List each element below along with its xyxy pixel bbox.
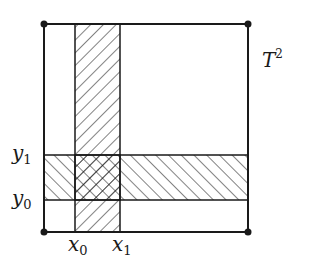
corner-dot-top-right <box>245 21 252 28</box>
y0-label: y0 <box>11 186 32 212</box>
corner-dot-bottom-right <box>245 229 252 236</box>
intersection-cell <box>75 155 120 200</box>
x1-label: x1 <box>112 232 132 258</box>
corner-dot-bottom-left <box>41 229 48 236</box>
y1-label: y1 <box>11 141 32 167</box>
corner-dot-top-left <box>41 21 48 28</box>
torus-diagram: T2 y1 y0 x0 x1 <box>0 0 312 276</box>
x0-label: x0 <box>68 232 88 258</box>
torus-label: T2 <box>262 47 283 72</box>
vertical-strip <box>75 24 120 232</box>
